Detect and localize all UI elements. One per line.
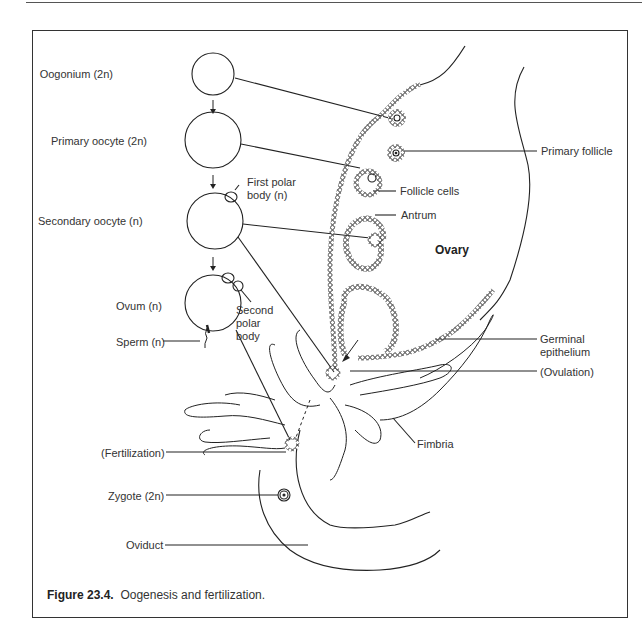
oogenesis-diagram xyxy=(0,0,642,641)
label-first-polar-body-1: First polar xyxy=(247,176,296,188)
label-fimbria: Fimbria xyxy=(417,438,454,450)
figure-caption: Figure 23.4. Oogenesis and fertilization… xyxy=(47,588,265,602)
label-second-polar-body-1: Second xyxy=(236,304,273,316)
label-oogonium: Oogonium (2n) xyxy=(40,68,113,80)
label-ovum: Ovum (n) xyxy=(116,300,162,312)
label-first-polar-body-2: body (n) xyxy=(247,189,287,201)
label-ovulation: (Ovulation) xyxy=(540,366,594,378)
caption-number: Figure 23.4. xyxy=(47,588,114,602)
label-oviduct: Oviduct xyxy=(126,539,163,551)
label-follicle-cells: Follicle cells xyxy=(400,185,459,197)
caption-text: Oogenesis and fertilization. xyxy=(120,588,265,602)
label-second-polar-body-3: body xyxy=(236,330,260,342)
label-primary-follicle: Primary follicle xyxy=(541,145,613,157)
label-sperm: Sperm (n) xyxy=(116,336,165,348)
label-fertilization: (Fertilization) xyxy=(101,447,165,459)
second-polar-body-a xyxy=(222,273,234,283)
label-antrum: Antrum xyxy=(401,209,436,221)
label-secondary-oocyte: Secondary oocyte (n) xyxy=(38,215,143,227)
primary-oocyte-cell xyxy=(185,112,241,168)
label-second-polar-body-2: polar xyxy=(236,317,260,329)
label-ovary: Ovary xyxy=(435,244,469,256)
ovum-cell xyxy=(185,275,241,331)
first-polar-body xyxy=(225,192,237,202)
oogonium-cell xyxy=(192,53,234,95)
label-zygote: Zygote (2n) xyxy=(108,490,164,502)
label-germinal-epithelium-2: epithelium xyxy=(540,346,590,358)
label-primary-oocyte: Primary oocyte (2n) xyxy=(51,135,147,147)
label-germinal-epithelium-1: Germinal xyxy=(540,333,585,345)
